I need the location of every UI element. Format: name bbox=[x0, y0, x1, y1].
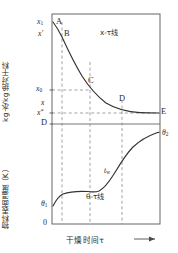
x-axis-label: 干燥时间τ bbox=[66, 234, 104, 245]
label-theta2: θ2 bbox=[162, 128, 168, 137]
ytick-xprime-mark: ′ bbox=[41, 29, 43, 38]
x-axis-arrow bbox=[134, 237, 155, 242]
ytick-x: x bbox=[41, 98, 44, 107]
annotation-tw: tw bbox=[104, 166, 110, 175]
origin-label: 0 bbox=[43, 218, 47, 227]
point-label-C: C bbox=[88, 76, 94, 85]
drying-curve-plot bbox=[0, 0, 178, 253]
point-label-D-curve: D bbox=[119, 94, 125, 103]
label-theta1: θ1 bbox=[41, 199, 47, 208]
y-axis-label-top: kg水/kg绝对干料 bbox=[2, 18, 9, 122]
point-label-A: A bbox=[56, 17, 62, 26]
ytick-x0: x0 bbox=[36, 84, 42, 93]
ytick-x-prime: x′ bbox=[38, 29, 43, 38]
tw-subscript: w bbox=[106, 169, 110, 175]
theta2-subscript: 2 bbox=[166, 131, 169, 137]
point-label-B: B bbox=[64, 29, 70, 38]
point-label-E: E bbox=[161, 107, 166, 116]
ytick-x0-subscript: 0 bbox=[39, 87, 42, 93]
theta1-subscript: 1 bbox=[45, 202, 48, 208]
axis-label-D: D bbox=[41, 118, 47, 127]
ytick-x1-subscript: 1 bbox=[40, 20, 43, 26]
annotation-theta-tau-line: θ-τ线 bbox=[86, 191, 104, 201]
drying-curve-figure: kg水/kg绝对干料 物料表面温度（K） 干燥时间τ 0 x-τ线 θ-τ线 t… bbox=[0, 0, 178, 253]
ytick-x-star: x* bbox=[37, 107, 44, 117]
ytick-xstar-mark: * bbox=[40, 107, 43, 114]
annotation-x-tau-line: x-τ线 bbox=[100, 27, 118, 37]
ytick-x1: x1 bbox=[37, 17, 43, 26]
y-axis-label-bottom: 物料表面温度（K） bbox=[2, 126, 9, 230]
